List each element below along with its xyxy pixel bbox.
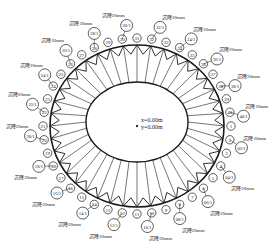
spoke-line bbox=[178, 146, 207, 174]
node-number: 38 bbox=[218, 84, 224, 89]
node-marker: 31 bbox=[133, 34, 141, 42]
settlement-label: 40/1沉降20mm bbox=[230, 103, 269, 122]
label-id: 20/1 bbox=[26, 134, 35, 139]
node-number: 32 bbox=[149, 37, 155, 42]
label-id: 02/1 bbox=[237, 146, 246, 151]
node-marker: 13 bbox=[104, 205, 112, 213]
settlement-label: 24/1沉降20mm bbox=[20, 62, 53, 86]
settlement-label: 18/1沉降20mm bbox=[14, 160, 53, 181]
node-marker: 12 bbox=[118, 209, 126, 217]
spoke-line bbox=[123, 162, 129, 206]
spoke-line bbox=[54, 134, 88, 151]
node-number: 26 bbox=[68, 62, 74, 67]
node-number: 29 bbox=[105, 40, 111, 45]
settlement-value: 沉降20mm bbox=[89, 233, 112, 240]
spoke-line bbox=[98, 158, 114, 199]
diagram-canvas: 1234567891011121314151617181920212223242… bbox=[0, 0, 272, 248]
label-id: 08/1 bbox=[176, 217, 185, 222]
node-number: 13 bbox=[105, 208, 111, 213]
node-marker: 11 bbox=[133, 210, 141, 218]
settlement-label: 30/1沉降20mm bbox=[102, 12, 133, 39]
label-id: 28/1 bbox=[90, 31, 99, 36]
label-id: 32/1 bbox=[156, 25, 165, 30]
node-number: 25 bbox=[58, 72, 64, 77]
label-id: 38/1 bbox=[231, 84, 240, 89]
settlement-value: 沉降20mm bbox=[149, 235, 172, 242]
label-id: 26/1 bbox=[62, 48, 71, 53]
node-number: 18 bbox=[51, 164, 57, 169]
node-marker: 26 bbox=[66, 60, 74, 68]
node-number: 37 bbox=[211, 72, 217, 77]
node-marker: 5 bbox=[209, 174, 217, 182]
settlement-label: 20/1沉降20mm bbox=[6, 123, 44, 142]
label-id: 18/1 bbox=[35, 164, 44, 169]
settlement-label: 10/1沉降20mm bbox=[141, 213, 172, 242]
settlement-value: 沉降20mm bbox=[20, 62, 43, 69]
spoke-line bbox=[59, 140, 91, 163]
spoke-line bbox=[54, 101, 88, 110]
settlement-label: 38/1沉降20mm bbox=[221, 73, 260, 92]
spoke-line bbox=[86, 154, 107, 191]
center-dot bbox=[136, 125, 138, 127]
label-id: 34/1 bbox=[187, 37, 196, 42]
settlement-label: 36/1沉降20mm bbox=[203, 46, 241, 65]
settlement-value: 沉降20mm bbox=[8, 91, 31, 98]
ring-settlement-diagram: 1234567891011121314151617181920212223242… bbox=[0, 0, 272, 248]
node-number: 10 bbox=[149, 211, 155, 216]
settlement-value: 沉降20mm bbox=[162, 14, 185, 21]
node-number: 11 bbox=[135, 212, 140, 217]
settlement-value: 沉降20mm bbox=[243, 135, 266, 142]
spoke-line bbox=[51, 113, 87, 115]
spoke-line bbox=[167, 154, 188, 191]
node-marker: 7 bbox=[188, 193, 196, 201]
node-marker: 25 bbox=[57, 70, 65, 78]
node-number: 31 bbox=[135, 36, 141, 41]
node-marker: 23 bbox=[43, 95, 51, 103]
settlement-label: 06/1沉降20mm bbox=[202, 188, 233, 216]
spoke-line bbox=[67, 146, 96, 174]
settlement-value: 沉降20mm bbox=[6, 123, 29, 130]
inner-opening bbox=[86, 82, 188, 162]
node-number: 20 bbox=[42, 138, 48, 143]
spoke-line bbox=[186, 101, 220, 110]
node-marker: 37 bbox=[209, 70, 217, 78]
settlement-label: 16/1沉降20mm bbox=[32, 187, 70, 208]
label-id: 12/1 bbox=[110, 223, 119, 228]
node-marker: 27 bbox=[78, 51, 86, 59]
settlement-label: 32/1沉降20mm bbox=[152, 14, 185, 39]
spoke-line bbox=[187, 113, 223, 115]
spoke-line bbox=[160, 158, 176, 199]
node-marker: 24 bbox=[49, 82, 57, 90]
label-id: 36/1 bbox=[213, 57, 222, 62]
spoke-line bbox=[75, 69, 100, 94]
settlement-label: 34/1沉降20mm bbox=[180, 26, 216, 48]
label-id: 16/1 bbox=[53, 191, 62, 196]
node-number: 39 bbox=[224, 97, 230, 102]
node-marker: 9 bbox=[162, 205, 170, 213]
node-number: 21 bbox=[41, 124, 47, 129]
center-y-label: y=0.00m bbox=[141, 124, 163, 130]
node-number: 35 bbox=[190, 53, 196, 58]
settlement-value: 沉降20mm bbox=[69, 20, 92, 27]
label-id: 22/1 bbox=[28, 102, 37, 107]
spoke-line bbox=[186, 134, 220, 151]
node-number: 34 bbox=[177, 46, 183, 51]
settlement-label: 04/1沉降20mm bbox=[221, 166, 254, 192]
spoke-line bbox=[182, 140, 214, 163]
spoke-line bbox=[173, 69, 198, 94]
node-marker: 19 bbox=[43, 149, 51, 157]
inner-ellipse bbox=[86, 82, 188, 162]
node-marker: 33 bbox=[162, 38, 170, 46]
node-marker: 17 bbox=[57, 174, 65, 182]
settlement-value: 沉降20mm bbox=[219, 46, 242, 53]
settlement-value: 沉降20mm bbox=[58, 221, 81, 228]
node-number: 15 bbox=[79, 195, 85, 200]
center-x-label: x=0.00m bbox=[141, 117, 163, 123]
settlement-label: 08/1沉降20mm bbox=[174, 204, 205, 233]
label-id: 04/1 bbox=[225, 175, 234, 180]
node-number: 24 bbox=[51, 84, 57, 89]
node-marker: 16 bbox=[66, 184, 74, 192]
node-marker: 35 bbox=[188, 51, 196, 59]
label-id: 06/1 bbox=[204, 200, 213, 205]
settlement-label: 12/1沉降20mm bbox=[89, 213, 122, 240]
